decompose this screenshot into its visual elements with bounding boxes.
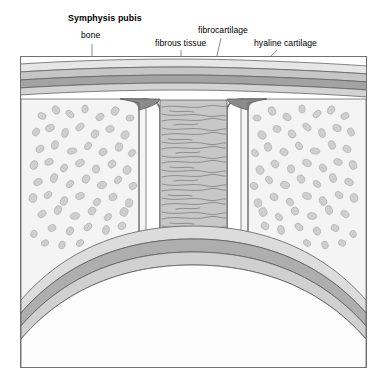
illustration-body bbox=[20, 56, 367, 368]
symphysis-pubis-illustration bbox=[0, 0, 382, 372]
label-symphysis-pubis: Symphysis pubis bbox=[68, 14, 142, 23]
label-bone: bone bbox=[81, 31, 100, 40]
label-fibrous-tissue: fibrous tissue bbox=[155, 39, 206, 48]
label-hyaline-cartilage: hyaline cartilage bbox=[254, 39, 317, 48]
label-fibrocartilage: fibrocartilage bbox=[198, 26, 248, 35]
